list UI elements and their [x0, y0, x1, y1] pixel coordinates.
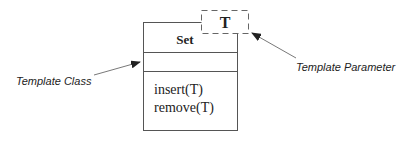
template-parameter-arrow-icon: [252, 33, 296, 58]
annotation-template-parameter: Template Parameter: [252, 33, 397, 73]
annotation-template-class: Template Class: [16, 62, 140, 87]
class-name: Set: [176, 32, 194, 47]
operation-insert: insert(T): [154, 82, 203, 98]
template-class-diagram: Set insert(T) remove(T) T Template Class…: [0, 0, 414, 141]
template-parameter-box: T: [202, 11, 249, 34]
template-parameter-label: T: [220, 14, 231, 31]
template-parameter-annotation-label: Template Parameter: [296, 61, 397, 73]
operation-remove: remove(T): [154, 100, 214, 116]
template-class-label: Template Class: [16, 75, 92, 87]
template-class-arrow-icon: [94, 62, 140, 75]
class-box: Set insert(T) remove(T): [144, 23, 238, 131]
